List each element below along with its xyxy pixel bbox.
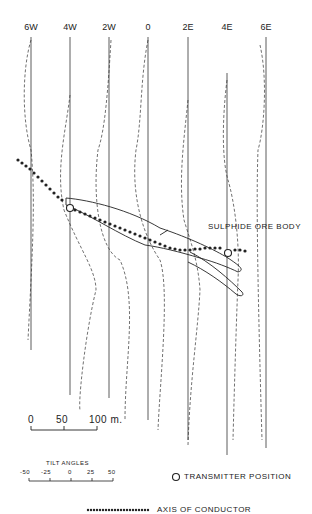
survey-lines <box>31 37 266 455</box>
tilt-scale <box>29 478 113 481</box>
scale-tick-0: 0 <box>28 414 34 425</box>
tilt-tick-m50: -50 <box>20 469 30 475</box>
tilt-tick-0: 0 <box>68 469 72 475</box>
legend-axis-label: AXIS OF CONDUCTOR <box>157 505 251 514</box>
diagram-canvas <box>0 0 312 514</box>
tilt-angles-title: TILT ANGLES <box>46 460 89 466</box>
legend-transmitter-label: TRANSMITTER POSITION <box>184 472 291 481</box>
ore-body-label: SULPHIDE ORE BODY <box>208 222 301 231</box>
tilt-tick-m25: -25 <box>41 469 51 475</box>
scale-tick-50: 50 <box>56 414 68 425</box>
legend-axis-dots <box>87 509 149 511</box>
tilt-tick-25: 25 <box>87 469 95 475</box>
transmitter-markers <box>67 205 232 257</box>
legend-transmitter-icon <box>173 474 180 481</box>
scale-tick-100: 100 m. <box>89 414 123 425</box>
tilt-tick-50: 50 <box>108 469 116 475</box>
scale-bar <box>31 426 97 430</box>
ore-body-outline <box>66 198 243 296</box>
tilt-profiles <box>24 40 264 445</box>
